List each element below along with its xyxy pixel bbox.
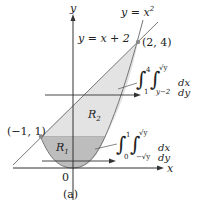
parabola-label: y = x2 [121, 6, 154, 18]
inner-lower-limit: y−2 [156, 89, 170, 96]
sweep-arrow-r1-head-icon [109, 159, 116, 164]
region-r1-subscript: 1 [64, 148, 68, 156]
figure-caption: (a) [63, 189, 78, 200]
x-axis-label: x [167, 163, 173, 174]
outer-lower-limit: 0 [124, 154, 128, 161]
inner-upper-limit: √y [159, 65, 167, 72]
x-axis-arrow-icon [157, 166, 164, 171]
outer-integral-sign-icon: ∫ [136, 69, 146, 89]
point-neg1-1-label: (−1, 1) [7, 126, 46, 137]
inner-integral-sign-icon: ∫ [150, 69, 160, 89]
origin-label: 0 [62, 172, 69, 183]
y-axis-arrow-icon [71, 14, 76, 21]
y-axis-label: y [70, 3, 76, 14]
parabola-label-base: y = x [121, 6, 150, 19]
inner-lower-limit: −√y [136, 154, 150, 161]
point-2-4 [136, 40, 140, 44]
region-r2-subscript: 2 [96, 115, 100, 123]
parabola-label-exponent: 2 [150, 5, 154, 13]
line-label: y = x + 2 [78, 33, 130, 44]
region-r2-label: R2 [88, 109, 101, 123]
point-2-4-label: (2, 4) [142, 37, 172, 48]
inner-upper-limit: √y [139, 130, 147, 137]
region-r1-label: R1 [56, 142, 69, 156]
differential: dx dy [158, 143, 170, 163]
outer-lower-limit: 1 [144, 89, 148, 96]
inner-integral-sign-icon: ∫ [130, 134, 140, 154]
outer-integral-sign-icon: ∫ [116, 134, 126, 154]
differential: dx dy [178, 78, 190, 98]
sweep-arrow-r2-head-icon [134, 93, 141, 98]
